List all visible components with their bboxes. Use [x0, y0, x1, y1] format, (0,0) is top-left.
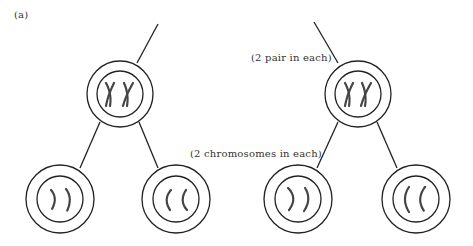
left-child-cell-1 [26, 165, 94, 233]
right-branch-line-2 [377, 122, 397, 168]
left-parent-cell [87, 61, 153, 127]
right-incoming-line [314, 22, 338, 63]
diagram-canvas [0, 0, 473, 246]
left-branch-line-1 [80, 122, 100, 168]
left-child-cell-2 [142, 165, 210, 233]
right-child-cell-1 [264, 165, 332, 233]
right-parent-cell [325, 61, 391, 127]
left-branch-line-2 [139, 122, 158, 168]
left-incoming-line [137, 24, 158, 63]
right-child-cell-2 [382, 165, 450, 233]
meiosis-diagram: (a) (2 pair in each) (2 chromosomes in e… [0, 0, 473, 246]
right-branch-line-1 [317, 122, 338, 168]
